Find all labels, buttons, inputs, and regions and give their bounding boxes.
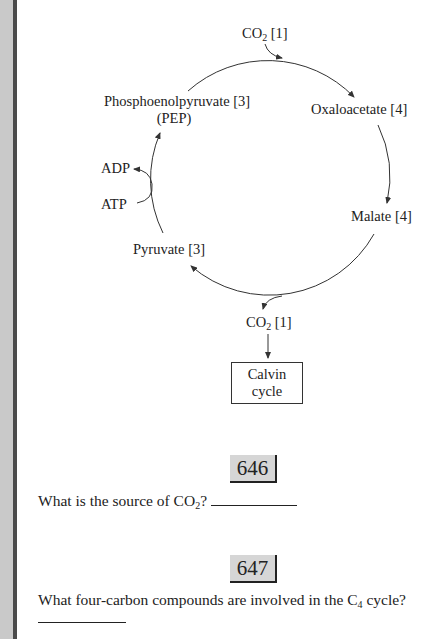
oxaloacetate-label: Oxaloacetate [4] (311, 101, 407, 118)
answer-blank-646[interactable] (211, 504, 297, 506)
atp-label: ATP (101, 196, 127, 213)
co2-input-label: CO2 [1] (242, 25, 288, 42)
adp-label: ADP (101, 160, 130, 177)
malate-label: Malate [4] (351, 208, 412, 225)
pep-label: Phosphoenolpyruvate [3] (PEP) (104, 93, 244, 127)
question-646-text: What is the source of CO2? (38, 492, 297, 510)
co2-output-label: CO2 [1] (246, 314, 292, 331)
question-number-646: 646 (230, 455, 277, 483)
pyruvate-label: Pyruvate [3] (133, 241, 205, 258)
calvin-cycle-box: Calvin cycle (231, 362, 303, 404)
answer-blank-647[interactable] (38, 622, 126, 623)
question-number-647: 647 (230, 555, 277, 583)
question-647-text: What four-carbon compounds are involved … (38, 591, 406, 609)
